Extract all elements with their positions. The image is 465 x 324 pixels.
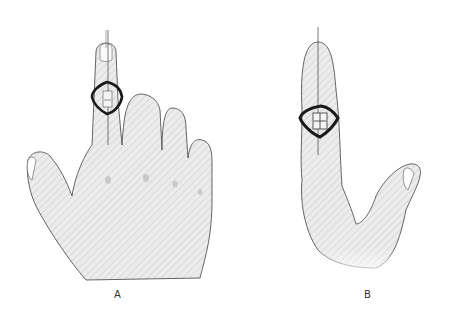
panel-b-hand — [290, 27, 430, 280]
panel-label-a: A — [114, 289, 121, 300]
panel-label-b: B — [364, 289, 371, 300]
panel-a-hand — [27, 30, 212, 280]
finger-splint-illustration — [0, 0, 465, 324]
